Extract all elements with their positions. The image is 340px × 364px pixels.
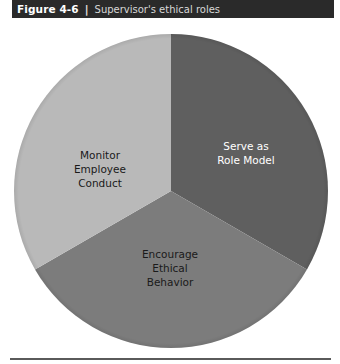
slice-label-serve-as-role-model: Serve as Role Model <box>196 139 296 167</box>
label-line: Ethical <box>120 261 220 275</box>
label-line: Behavior <box>120 275 220 289</box>
pie-edge-shade <box>14 34 328 348</box>
label-line: Encourage <box>120 247 220 261</box>
label-line: Employee <box>50 162 150 176</box>
pie-slices <box>14 34 328 348</box>
label-line: Monitor <box>50 148 150 162</box>
slice-label-monitor-employee-conduct: Monitor Employee Conduct <box>50 148 150 190</box>
label-line: Role Model <box>196 153 296 167</box>
label-line: Serve as <box>196 139 296 153</box>
slice-label-encourage-ethical-behavior: Encourage Ethical Behavior <box>120 247 220 289</box>
bottom-rule <box>10 358 331 360</box>
label-line: Conduct <box>50 176 150 190</box>
